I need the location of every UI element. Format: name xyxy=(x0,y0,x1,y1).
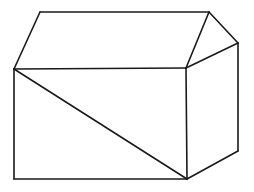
front-right-edge xyxy=(186,68,187,179)
roof-front-slope xyxy=(186,12,209,68)
side-bottom-edge xyxy=(187,151,238,179)
house-diagram xyxy=(0,0,254,192)
front-diagonal xyxy=(14,69,187,179)
front-top-edge xyxy=(14,68,186,69)
roof-left-edge xyxy=(14,12,40,69)
gable-base-edge xyxy=(186,43,238,68)
roof-back-slope xyxy=(209,12,238,43)
